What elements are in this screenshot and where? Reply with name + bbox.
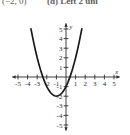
y-tick-label: -1	[57, 83, 63, 91]
cropped-answer-choices-text: (−2, 0) (d) Left 2 uni	[0, 0, 130, 11]
y-tick-label: -5	[57, 122, 63, 130]
x-axis-label: x	[114, 68, 118, 75]
parabola-plot-svg: -5-4-3-2-112345 54321-1-2-3-4-5 x y	[0, 11, 130, 135]
axes-group	[12, 23, 120, 131]
y-axis-tick-labels: 54321-1-2-3-4-5	[57, 26, 63, 130]
x-tick-label: -5	[15, 80, 21, 88]
x-tick-label: 5	[112, 80, 116, 88]
y-tick-label: 4	[59, 35, 63, 43]
coordinate-plane-graph: -5-4-3-2-112345 54321-1-2-3-4-5 x y	[0, 11, 130, 135]
x-tick-label: -3	[34, 80, 40, 88]
y-tick-label: -3	[57, 102, 63, 110]
x-tick-label: 2	[83, 80, 87, 88]
y-tick-label: 3	[59, 45, 63, 53]
answer-fragment-right: (d) Left 2 uni	[47, 0, 98, 6]
y-axis-label: y	[69, 23, 73, 30]
y-tick-label: 1	[59, 64, 63, 72]
x-tick-label: 1	[74, 80, 78, 88]
figure-container: (−2, 0) (d) Left 2 uni -5-4-3-2-112345 5…	[0, 0, 130, 135]
x-tick-label: -4	[25, 80, 31, 88]
answer-fragment-left: (−2, 0)	[2, 0, 27, 6]
y-tick-label: 2	[59, 54, 63, 62]
y-tick-label: -4	[57, 112, 63, 120]
y-tick-label: 5	[59, 26, 63, 34]
x-tick-label: 4	[103, 80, 107, 88]
x-tick-label: 3	[93, 80, 97, 88]
